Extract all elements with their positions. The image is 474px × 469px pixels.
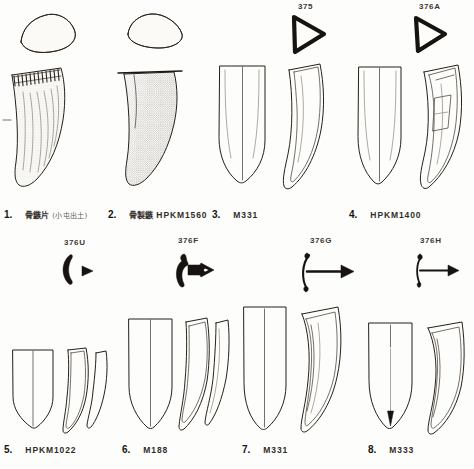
specimen-2-cross-section	[122, 8, 192, 58]
specimen-6-catalog-code: M188	[143, 445, 168, 455]
specimen-8: 376H	[358, 235, 474, 469]
specimen-5-catalog-code: HPKM1022	[25, 445, 76, 455]
specimen-6-number: 6.	[122, 444, 130, 455]
plate-row-2: 376U 5.HPKM1022	[0, 235, 474, 469]
specimen-7: 376G	[238, 235, 358, 469]
specimen-7-cross-section	[293, 251, 359, 293]
specimen-8-cross-section	[406, 251, 466, 291]
specimen-6: 376F 6.M188	[118, 235, 238, 469]
specimen-3-number: 3.	[212, 209, 220, 220]
specimen-5-code: 376U	[64, 238, 86, 247]
specimen-8-drawing	[364, 319, 474, 435]
specimen-1-drawing	[3, 66, 79, 192]
specimen-6-drawing	[124, 315, 236, 435]
specimen-3-drawing	[213, 62, 341, 192]
specimen-1-cross-section	[16, 8, 88, 60]
specimen-4: 376A	[341, 0, 474, 234]
specimen-1-paren: (小屯出土)	[52, 212, 87, 220]
specimen-8-caption: 8.M333	[368, 444, 414, 455]
specimen-1-number: 1.	[4, 209, 12, 220]
specimen-4-caption: 4.HPKM1400	[349, 209, 421, 220]
specimen-4-number: 4.	[349, 209, 357, 220]
specimen-8-code: 376H	[420, 236, 442, 245]
specimen-5-drawing	[8, 347, 116, 435]
specimen-2-caption: 2.骨製鏃HPKM1560	[108, 209, 207, 220]
illustration-plate: 1.骨鏃片(小屯出土)	[0, 0, 474, 469]
specimen-5-cross-section	[56, 253, 110, 287]
specimen-2-number: 2.	[108, 209, 116, 220]
specimen-1: 1.骨鏃片(小屯出土)	[0, 0, 104, 234]
specimen-7-code: 376G	[310, 236, 332, 245]
specimen-8-catalog-code: M333	[389, 445, 414, 455]
specimen-3: 375 3.M3	[208, 0, 341, 234]
specimen-7-drawing	[240, 303, 356, 435]
specimen-7-caption: 7.M331	[242, 444, 288, 455]
specimen-3-catalog-code: M331	[233, 210, 258, 220]
specimen-2-cjk: 骨製鏃	[129, 211, 153, 220]
specimen-2-catalog-code: HPKM1560	[156, 210, 207, 220]
specimen-3-code: 375	[298, 2, 313, 11]
specimen-6-cross-section	[168, 251, 226, 291]
specimen-4-drawing	[351, 62, 474, 192]
specimen-5-number: 5.	[4, 444, 12, 455]
specimen-3-cross-section	[288, 13, 332, 57]
specimen-5: 376U 5.HPKM1022	[0, 235, 118, 469]
specimen-4-catalog-code: HPKM1400	[370, 210, 421, 220]
specimen-1-caption: 1.骨鏃片(小屯出土)	[4, 209, 88, 220]
specimen-1-cjk: 骨鏃片	[25, 211, 49, 220]
plate-row-1: 1.骨鏃片(小屯出土)	[0, 0, 474, 234]
specimen-6-code: 376F	[178, 236, 199, 245]
specimen-3-caption: 3.M331	[212, 209, 258, 220]
specimen-2-drawing	[114, 66, 190, 192]
specimen-5-caption: 5.HPKM1022	[4, 444, 76, 455]
specimen-7-number: 7.	[242, 444, 250, 455]
specimen-4-code: 376A	[419, 2, 441, 11]
specimen-4-cross-section	[409, 13, 453, 57]
specimen-8-number: 8.	[368, 444, 376, 455]
specimen-7-catalog-code: M331	[263, 445, 288, 455]
specimen-2: 2.骨製鏃HPKM1560	[104, 0, 208, 234]
specimen-6-caption: 6.M188	[122, 444, 168, 455]
